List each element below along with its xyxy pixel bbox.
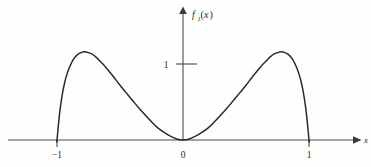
figure-container: f 1 ( x ) x 1 −1 0 1 [0,0,371,167]
y-axis-arrow-icon [179,7,187,15]
x-axis-label: x [363,135,368,145]
function-plot: f 1 ( x ) x 1 −1 0 1 [0,0,371,167]
x-tick-label-minus-1: −1 [52,150,62,160]
y-axis-label-arg: x [203,9,209,20]
x-axis-arrow-icon [353,136,362,144]
y-axis-label-f: f [192,9,196,20]
x-tick-label-plus-1: 1 [307,150,312,160]
origin-label: 0 [181,150,186,160]
y-axis-label-paren-close: ) [210,9,213,21]
y-tick-label-1: 1 [164,60,169,70]
